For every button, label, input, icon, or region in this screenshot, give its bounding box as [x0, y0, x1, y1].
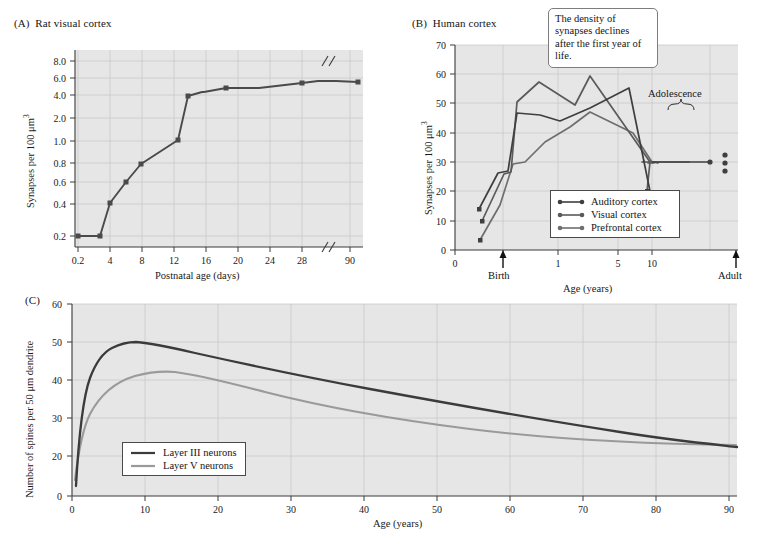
panel-b-ytick-labels: 70 60 50 40 30 20 10 0	[436, 40, 446, 256]
svg-text:8.0: 8.0	[54, 56, 67, 67]
svg-text:20: 20	[436, 186, 446, 197]
legend-swatch-layer-v-icon	[128, 461, 158, 471]
legend-item-visual[interactable]: Visual cortex	[551, 208, 679, 221]
svg-text:0: 0	[453, 258, 458, 269]
panel-a-plot-background	[75, 50, 363, 247]
adolescence-label: Adolescence	[648, 88, 702, 99]
svg-text:20: 20	[233, 255, 243, 266]
svg-text:60: 60	[436, 69, 446, 80]
svg-text:16: 16	[201, 255, 211, 266]
svg-text:0.4: 0.4	[54, 199, 67, 210]
legend-item-layer-v[interactable]: Layer V neurons	[123, 459, 245, 472]
panel-a-yticks	[70, 61, 75, 236]
svg-text:0: 0	[70, 504, 75, 515]
panel-a-ytick-labels: 8.0 6.0 4.0 2.0 1.0 0.8 0.6 0.4 0.2	[54, 56, 67, 242]
legend-label-layer-v: Layer V neurons	[163, 460, 233, 471]
svg-text:0.8: 0.8	[54, 158, 67, 169]
svg-text:5: 5	[616, 258, 621, 269]
svg-text:1: 1	[556, 258, 561, 269]
svg-text:50: 50	[52, 337, 62, 348]
legend-item-layer-iii[interactable]: Layer III neurons	[123, 446, 245, 459]
birth-arrow-icon	[500, 250, 507, 268]
svg-text:8: 8	[140, 255, 145, 266]
svg-text:70: 70	[578, 504, 588, 515]
legend-label-layer-iii: Layer III neurons	[163, 447, 236, 458]
birth-label: Birth	[488, 270, 510, 281]
svg-text:0.2: 0.2	[54, 231, 67, 242]
adult-label: Adult	[718, 270, 742, 281]
panel-c-xlabel: Age (years)	[373, 518, 422, 529]
svg-text:12: 12	[169, 255, 179, 266]
svg-text:40: 40	[52, 375, 62, 386]
svg-text:4: 4	[108, 255, 113, 266]
panel-b-adult-dots	[722, 152, 727, 173]
svg-text:70: 70	[436, 40, 446, 51]
svg-text:30: 30	[436, 157, 446, 168]
svg-text:90: 90	[724, 504, 734, 515]
svg-text:50: 50	[436, 98, 446, 109]
legend-label-auditory: Auditory cortex	[591, 196, 658, 207]
panel-b-legend: Auditory cortex Visual cortex Prefrontal…	[550, 190, 680, 238]
panel-b-callout: The density of synapses declines after t…	[548, 8, 658, 68]
legend-label-prefrontal: Prefrontal cortex	[591, 222, 662, 233]
panel-b: (B) Human cortex Synapses per 100 μm3	[400, 0, 767, 300]
panel-c-ytick-labels: 60 50 40 30 20 0	[52, 299, 62, 502]
svg-text:20: 20	[213, 504, 223, 515]
panel-a-xlabel: Postnatal age (days)	[155, 270, 240, 281]
legend-swatch-auditory-icon	[556, 197, 586, 207]
panel-c: (C) Number of spines per 50 μm dendrite	[0, 290, 767, 544]
svg-text:20: 20	[52, 451, 62, 462]
panel-c-plot: 60 50 40 30 20 0 0 10 20 30 40 50 60 70 …	[0, 290, 767, 544]
svg-text:1.0: 1.0	[54, 136, 67, 147]
panel-a: (A) Rat visual cortex Synapses per 100 μ…	[0, 0, 400, 290]
legend-item-auditory[interactable]: Auditory cortex	[551, 195, 679, 208]
svg-text:50: 50	[432, 504, 442, 515]
panel-a-xticks	[78, 247, 350, 252]
panel-b-xtick-labels: 0 1 5 10	[453, 258, 658, 269]
svg-text:4.0: 4.0	[54, 90, 67, 101]
svg-text:90: 90	[345, 255, 355, 266]
svg-text:30: 30	[286, 504, 296, 515]
svg-text:40: 40	[436, 128, 446, 139]
svg-text:10: 10	[436, 216, 446, 227]
panel-c-yticks	[67, 304, 72, 496]
panel-c-xtick-labels: 0 10 20 30 40 50 60 70 80 90	[70, 504, 735, 515]
panel-c-xticks	[72, 496, 729, 501]
panel-b-yticks	[450, 45, 455, 250]
panel-c-legend: Layer III neurons Layer V neurons	[122, 442, 246, 476]
svg-text:0: 0	[57, 491, 62, 502]
svg-text:24: 24	[265, 255, 275, 266]
svg-text:30: 30	[52, 413, 62, 424]
legend-item-prefrontal[interactable]: Prefrontal cortex	[551, 221, 679, 234]
svg-text:10: 10	[647, 258, 657, 269]
legend-label-visual: Visual cortex	[591, 209, 647, 220]
svg-text:0.6: 0.6	[54, 177, 67, 188]
svg-text:60: 60	[505, 504, 515, 515]
svg-text:80: 80	[651, 504, 661, 515]
svg-text:2.0: 2.0	[54, 113, 67, 124]
svg-text:60: 60	[52, 299, 62, 310]
legend-swatch-prefrontal-icon	[556, 223, 586, 233]
figure-root: (A) Rat visual cortex Synapses per 100 μ…	[0, 0, 767, 544]
panel-a-plot: 8.0 6.0 4.0 2.0 1.0 0.8 0.6 0.4 0.2 0.2 …	[0, 0, 400, 290]
adult-arrow-icon	[733, 250, 740, 268]
legend-swatch-layer-iii-icon	[128, 448, 158, 458]
svg-text:6.0: 6.0	[54, 73, 67, 84]
panel-a-xtick-labels: 0.2 4 8 12 16 20 24 28 90	[72, 255, 355, 266]
panel-b-xticks	[455, 250, 736, 255]
svg-text:0.2: 0.2	[72, 255, 85, 266]
svg-text:10: 10	[140, 504, 150, 515]
svg-text:0: 0	[441, 245, 446, 256]
legend-swatch-visual-icon	[556, 210, 586, 220]
svg-text:28: 28	[297, 255, 307, 266]
svg-text:40: 40	[359, 504, 369, 515]
